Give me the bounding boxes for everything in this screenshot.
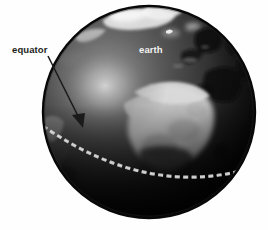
figure-canvas: equator earth — [0, 0, 268, 230]
globe — [40, 4, 262, 221]
earth-label: earth — [139, 44, 163, 55]
equator-label: equator — [12, 44, 48, 55]
earth-diagram: equator earth — [0, 0, 268, 230]
